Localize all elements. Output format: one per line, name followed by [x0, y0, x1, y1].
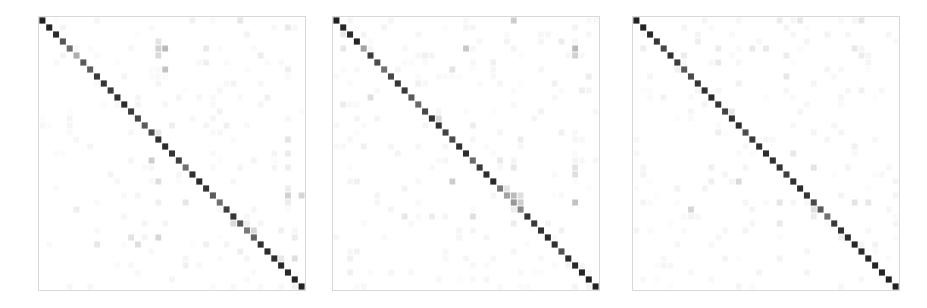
panel-confusion-matrix-3 — [632, 16, 900, 291]
panel-confusion-matrix-1 — [38, 16, 306, 291]
heatmap-canvas-3 — [633, 17, 899, 290]
heatmap-canvas-2 — [333, 17, 599, 290]
heatmap-canvas-1 — [39, 17, 305, 290]
panel-confusion-matrix-2 — [332, 16, 600, 291]
confusion-matrix-figure — [0, 0, 927, 308]
